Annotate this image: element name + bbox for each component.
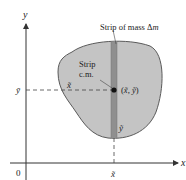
cm-close-paren: )	[136, 85, 139, 95]
center-of-mass-coordinates-label: (x̃, ỹ)	[121, 85, 139, 95]
y-bar-axis-label: ȳ	[15, 85, 21, 95]
strip-mass-variable: m	[152, 22, 158, 32]
strip-cm-label-line2: c.m.	[79, 69, 94, 79]
strip-mass-text: Strip of mass Δ	[100, 22, 153, 32]
x-tilde-inside-label: x̃	[66, 80, 72, 90]
strip-of-mass-label: Strip of mass Δm	[100, 22, 159, 32]
x-tilde-axis-label: x̃	[110, 169, 116, 179]
x-axis-label: x	[180, 157, 186, 168]
centroid-diagram: y x 0 ȳ x̃ x̃ ỹ Strip c.m. (x̃, ỹ) Str…	[0, 0, 186, 180]
strip-center-of-mass-dot	[111, 87, 116, 92]
origin-label: 0	[16, 168, 21, 178]
y-axis-label: y	[22, 9, 28, 20]
strip-cm-label-line1: Strip	[79, 59, 96, 69]
